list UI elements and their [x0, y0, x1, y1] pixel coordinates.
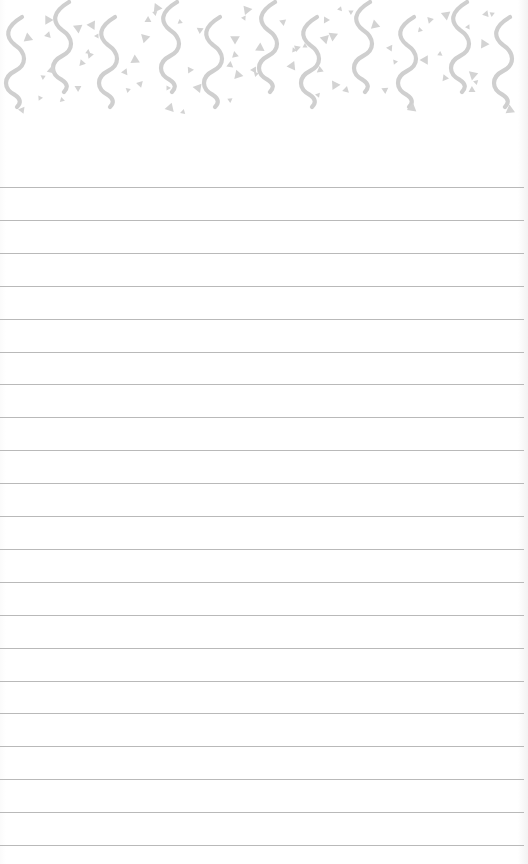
ruled-line — [0, 615, 524, 616]
ruled-line — [0, 417, 524, 418]
ruled-line — [0, 220, 524, 221]
ruled-line — [0, 253, 524, 254]
ruled-line — [0, 187, 524, 188]
ruled-line — [0, 746, 524, 747]
ruled-line — [0, 384, 524, 385]
ruled-line — [0, 648, 524, 649]
notepad-paper — [0, 0, 528, 864]
ruled-line — [0, 483, 524, 484]
ruled-line — [0, 516, 524, 517]
ruled-line — [0, 681, 524, 682]
ruled-line — [0, 812, 524, 813]
ruled-line — [0, 713, 524, 714]
ruled-line — [0, 779, 524, 780]
ruled-lines — [0, 0, 528, 864]
ruled-line — [0, 352, 524, 353]
ruled-line — [0, 319, 524, 320]
ruled-line — [0, 450, 524, 451]
ruled-line — [0, 582, 524, 583]
ruled-line — [0, 549, 524, 550]
ruled-line — [0, 845, 524, 846]
ruled-line — [0, 286, 524, 287]
